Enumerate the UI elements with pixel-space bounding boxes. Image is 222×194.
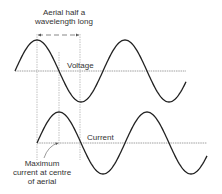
- aerial-label-line1: Aerial half a: [34, 8, 94, 17]
- max-label-line3: of aerial: [12, 177, 72, 186]
- diagram: Aerial half a wavelength long Voltage Cu…: [0, 0, 222, 194]
- aerial-label: Aerial half a wavelength long: [34, 8, 94, 26]
- current-label: Current: [87, 133, 114, 142]
- voltage-label: Voltage: [67, 61, 94, 70]
- max-label-line1: Maximum: [12, 159, 72, 168]
- callout-arrow: [44, 143, 58, 158]
- max-label-line2: current at centre: [12, 168, 72, 177]
- aerial-label-line2: wavelength long: [34, 17, 94, 26]
- maximum-current-label: Maximum current at centre of aerial: [12, 159, 72, 186]
